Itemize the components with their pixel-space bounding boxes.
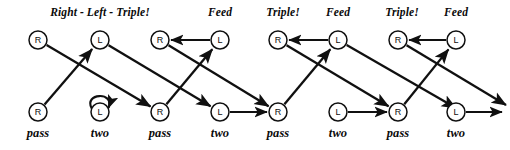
node-label: L: [453, 107, 458, 117]
bottom-node-5: L: [329, 103, 347, 121]
edge-layer: [45, 40, 506, 112]
node-label: L: [217, 107, 222, 117]
bottom-node-0: R: [29, 103, 47, 121]
top-node-0: R: [29, 31, 47, 49]
node-label: L: [335, 35, 340, 45]
phase-label-2: Triple!: [266, 6, 300, 18]
move-label-3: two: [211, 126, 229, 141]
phase-label-1: Feed: [208, 6, 232, 18]
phase-label-3: Feed: [326, 6, 350, 18]
node-label: R: [35, 35, 42, 45]
node-label: R: [35, 107, 42, 117]
top-node-5: L: [329, 31, 347, 49]
node-label: L: [97, 35, 102, 45]
bottom-node-6: R: [389, 103, 407, 121]
node-label: L: [217, 35, 222, 45]
node-label: R: [275, 35, 282, 45]
move-label-1: two: [91, 126, 109, 141]
node-label: L: [335, 107, 340, 117]
top-node-3: L: [211, 31, 229, 49]
automaton-diagram: RLRLRLRLRLRLRLRL: [0, 0, 510, 150]
node-label: R: [395, 35, 402, 45]
node-label: R: [157, 107, 164, 117]
top-node-6: R: [389, 31, 407, 49]
phase-label-0: Right - Left - Triple!: [50, 6, 150, 18]
move-label-7: two: [447, 126, 465, 141]
phase-label-4: Triple!: [385, 6, 419, 18]
node-label: L: [453, 35, 458, 45]
move-label-5: two: [329, 126, 347, 141]
top-node-1: L: [91, 31, 109, 49]
figure-canvas: RLRLRLRLRLRLRLRL Right - Left - Triple!F…: [0, 0, 510, 150]
edge-diagonal-down: [109, 45, 211, 106]
move-label-4: pass: [267, 126, 290, 141]
bottom-node-4: R: [269, 103, 287, 121]
node-label: R: [395, 107, 402, 117]
move-label-0: pass: [27, 126, 50, 141]
top-node-2: R: [151, 31, 169, 49]
top-node-7: L: [447, 31, 465, 49]
bottom-node-7: L: [447, 103, 465, 121]
bottom-node-3: L: [211, 103, 229, 121]
node-label: R: [157, 35, 164, 45]
edge-diagonal-down-open: [347, 45, 456, 108]
move-label-6: pass: [387, 126, 410, 141]
move-label-2: pass: [149, 126, 172, 141]
bottom-node-1: L: [91, 103, 109, 121]
node-label: R: [275, 107, 282, 117]
edge-diagonal-down: [287, 45, 389, 106]
edge-diagonal-down: [169, 45, 269, 106]
edge-diagonal-down-open: [407, 45, 506, 105]
top-node-4: R: [269, 31, 287, 49]
node-label: L: [97, 107, 102, 117]
edge-diagonal-down: [47, 45, 151, 106]
bottom-node-2: R: [151, 103, 169, 121]
phase-label-5: Feed: [444, 6, 468, 18]
